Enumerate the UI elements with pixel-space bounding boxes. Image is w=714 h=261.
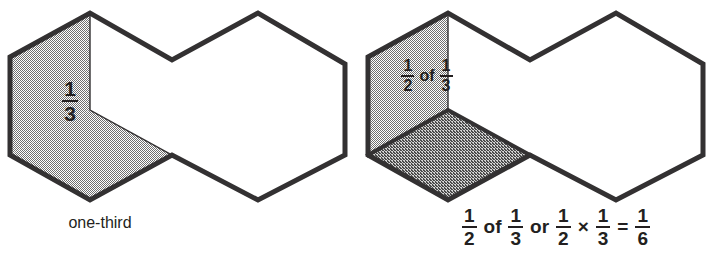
word-or: or [530,217,549,237]
fraction-one-third: 1 3 [508,206,523,249]
fraction-denominator: 3 [596,229,611,248]
fraction-one-half: 1 2 [401,58,414,95]
multiply-operator-icon: × [578,217,589,237]
fraction-denominator: 3 [62,103,78,124]
right-figure-caption: 1 2 of 1 3 or 1 2 [406,206,706,260]
fraction-one-third: 1 3 [62,78,78,125]
fraction-numerator: 1 [508,206,523,225]
fraction-numerator: 1 [556,206,571,225]
fraction-one-third: 1 3 [440,58,453,95]
fraction-numerator: 1 [462,206,477,225]
fraction-diagram: 1 3 one-third [0,0,714,261]
half-of-one-third-figure: 1 2 of 1 3 1 [368,13,706,260]
fraction-numerator: 1 [440,58,453,74]
equals-operator-icon: = [617,217,628,237]
fraction-one-half: 1 2 [462,206,477,249]
right-figure-inner-label: 1 2 of 1 3 [372,58,482,114]
word-of: of [419,68,434,85]
fraction-denominator: 6 [635,229,650,248]
fraction-denominator: 2 [401,78,414,94]
one-third-caption-text: one-third [20,214,180,232]
fraction-denominator: 3 [508,229,523,248]
figure-board: 1 3 one-third [0,0,714,261]
fraction-denominator: 3 [440,78,453,94]
one-third-figure: 1 3 one-third [10,13,345,244]
fraction-numerator: 1 [596,206,611,225]
left-figure-caption: one-third [20,214,180,244]
fraction-numerator: 1 [401,58,414,74]
left-figure-inner-label: 1 3 [30,78,110,138]
fraction-numerator: 1 [62,78,78,99]
fraction-one-half-2: 1 2 [556,206,571,249]
fraction-one-sixth: 1 6 [635,206,650,249]
word-of: of [484,217,502,237]
half-of-one-third-caption: 1 2 of 1 3 or 1 2 [406,206,706,249]
fraction-denominator: 2 [462,229,477,248]
fraction-denominator: 2 [556,229,571,248]
fraction-numerator: 1 [635,206,650,225]
fraction-one-third-2: 1 3 [596,206,611,249]
